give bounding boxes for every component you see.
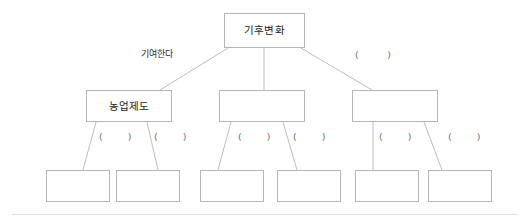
edge-label-top-right[interactable]: ( ) xyxy=(355,50,392,60)
edge-label-mid2-right[interactable]: ( ) xyxy=(293,132,326,142)
footer-divider xyxy=(12,214,518,215)
node-mid-1[interactable]: 농업제도 xyxy=(86,90,172,122)
edge-label-mid3-left[interactable]: ( ) xyxy=(379,132,412,142)
edge-label-mid1-right[interactable]: ( ) xyxy=(154,132,187,142)
edge-label-mid3-right[interactable]: ( ) xyxy=(448,132,481,142)
edge-mid1-to-leaf2 xyxy=(147,122,158,170)
node-mid-3[interactable] xyxy=(352,90,438,122)
edge-mid2-to-leaf4 xyxy=(283,122,297,170)
node-root[interactable]: 기후변화 xyxy=(224,13,305,48)
node-leaf-2[interactable] xyxy=(116,170,180,202)
edge-label-mid1-left[interactable]: ( ) xyxy=(99,132,132,142)
node-leaf-5[interactable] xyxy=(355,170,419,202)
edge-label-top-left: 기여한다 xyxy=(141,50,173,59)
edge-label-mid2-left[interactable]: ( ) xyxy=(238,132,271,142)
node-leaf-3[interactable] xyxy=(200,170,264,202)
concept-map-diagram: 기후변화 농업제도 기여한다 ( ) ( ) ( ) ( ) ( ) ( xyxy=(0,0,530,221)
node-mid-1-label: 농업제도 xyxy=(109,101,150,112)
node-leaf-6[interactable] xyxy=(428,170,492,202)
node-mid-2[interactable] xyxy=(219,90,305,122)
node-root-label: 기후변화 xyxy=(244,25,285,36)
edge-mid3-to-leaf6 xyxy=(424,122,442,170)
node-leaf-4[interactable] xyxy=(277,170,341,202)
node-leaf-1[interactable] xyxy=(46,170,110,202)
edge-mid2-to-leaf3 xyxy=(218,122,231,170)
edge-mid1-to-leaf1 xyxy=(83,122,96,170)
